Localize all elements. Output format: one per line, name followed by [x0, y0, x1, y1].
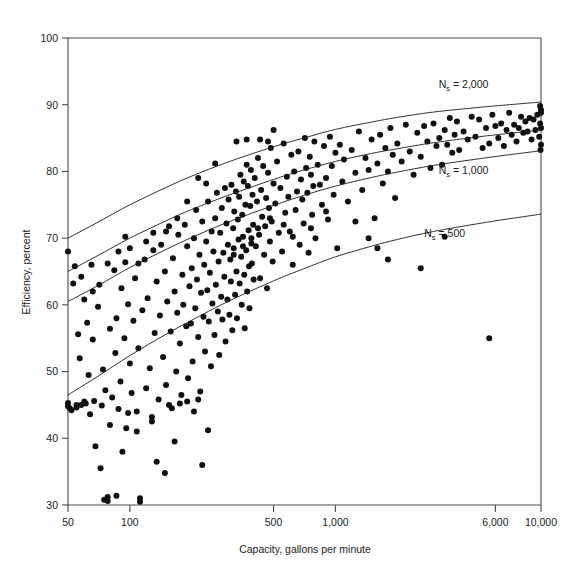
scatter-point	[163, 382, 169, 388]
scatter-point	[407, 148, 413, 154]
scatter-point	[201, 262, 207, 268]
scatter-point	[134, 429, 140, 435]
scatter-point	[252, 175, 258, 181]
scatter-point	[495, 135, 501, 141]
scatter-point	[486, 335, 492, 341]
scatter-point	[190, 359, 196, 365]
scatter-point	[311, 138, 317, 144]
x-axis: 501005001,0006,00010,000	[62, 505, 557, 528]
scatter-point	[377, 132, 383, 138]
scatter-point	[240, 234, 246, 240]
x-tick-label: 100	[121, 516, 139, 528]
scatter-point	[222, 185, 228, 191]
scatter-point	[105, 260, 111, 266]
scatter-point	[219, 317, 225, 323]
scatter-point	[310, 183, 316, 189]
scatter-point	[210, 248, 216, 254]
scatter-point	[263, 195, 269, 201]
scatter-point	[182, 222, 188, 228]
scatter-point	[233, 269, 239, 275]
scatter-point	[241, 272, 247, 278]
scatter-point	[369, 136, 375, 142]
scatter-point	[254, 198, 260, 204]
scatter-point	[203, 180, 209, 186]
scatter-point	[431, 120, 437, 126]
scatter-point	[69, 407, 75, 413]
scatter-point	[154, 279, 160, 285]
scatter-point	[538, 147, 544, 153]
scatter-point	[290, 234, 296, 240]
scatter-point	[332, 150, 338, 156]
scatter-point	[216, 258, 222, 264]
scatter-point	[92, 443, 98, 449]
scatter-point	[287, 228, 293, 234]
scatter-point	[501, 143, 507, 149]
scatter-point	[156, 397, 162, 403]
scatter-point	[152, 330, 158, 336]
scatter-point	[258, 187, 264, 193]
scatter-point	[504, 127, 510, 133]
scatter-point	[362, 155, 368, 161]
scatter-point	[177, 341, 183, 347]
scatter-point	[170, 255, 176, 261]
scatter-point	[75, 331, 81, 337]
scatter-point	[271, 127, 277, 133]
scatter-point	[261, 252, 267, 258]
y-tick-label: 100	[40, 32, 58, 44]
curve-line	[68, 214, 541, 395]
scatter-point	[538, 142, 544, 148]
y-axis-title: Efficiency, percent	[20, 230, 32, 315]
scatter-point	[149, 419, 155, 425]
scatter-point	[349, 147, 355, 153]
scatter-point	[213, 282, 219, 288]
scatter-point	[107, 326, 113, 332]
scatter-point	[411, 172, 417, 178]
scatter-point	[282, 210, 288, 216]
scatter-point	[356, 128, 362, 134]
scatter-point	[536, 134, 542, 140]
scatter-point	[231, 245, 237, 251]
scatter-point	[317, 182, 323, 188]
scatter-point	[234, 315, 240, 321]
scatter-point	[249, 260, 255, 266]
scatter-point	[223, 339, 229, 345]
scatter-point	[122, 234, 128, 240]
scatter-point	[489, 112, 495, 118]
scatter-point	[150, 247, 156, 253]
scatter-point	[204, 287, 210, 293]
scatter-point	[177, 401, 183, 407]
scatter-point	[119, 449, 125, 455]
scatter-point	[112, 350, 118, 356]
scatter-point	[206, 319, 212, 325]
curve-label: Ns = 2,000	[439, 78, 489, 93]
scatter-point	[123, 425, 129, 431]
scatter-point	[265, 138, 271, 144]
scatter-point	[125, 301, 131, 307]
scatter-point	[359, 187, 365, 193]
scatter-point	[199, 218, 205, 224]
scatter-point	[78, 274, 84, 280]
scatter-point	[125, 410, 131, 416]
scatter-point	[433, 143, 439, 149]
scatter-point	[452, 132, 458, 138]
curve-labels: Ns = 2,000Ns = 1,000Ns = 500	[424, 78, 488, 242]
scatter-point	[319, 202, 325, 208]
scatter-point	[218, 294, 224, 300]
scatter-point	[247, 305, 253, 311]
scatter-point	[267, 238, 273, 244]
scatter-point	[337, 142, 343, 148]
scatter-point	[219, 205, 225, 211]
x-tick-label: 500	[265, 516, 283, 528]
scatter-point	[214, 190, 220, 196]
scatter-point	[117, 379, 123, 385]
scatter-point	[185, 375, 191, 381]
scatter-point	[308, 172, 314, 178]
scatter-point	[157, 313, 163, 319]
scatter-point	[480, 145, 486, 151]
scatter-point	[172, 439, 178, 445]
scatter-point	[392, 195, 398, 201]
scatter-point	[99, 403, 105, 409]
scatter-point	[90, 337, 96, 343]
scatter-point	[91, 398, 97, 404]
x-axis-title: Capacity, gallons per minute	[239, 543, 371, 555]
